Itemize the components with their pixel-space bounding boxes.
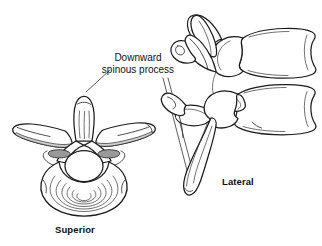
caption-superior-view: Superior [55,224,95,235]
left-superior-articular-facet [48,150,70,158]
superior-view-vertebra [13,96,156,216]
leader-line-to-lateral-view-secondary [168,78,194,176]
right-superior-articular-facet [98,150,120,158]
callout-downward-spinous-process: Downward spinous process [96,52,180,75]
caption-lateral-view: Lateral [222,176,254,187]
vertebra-illustration [0,0,322,246]
callout-line-2: spinous process [96,64,180,76]
vertebral-foramen [65,151,103,182]
lower-inferior-articular-process [161,93,186,115]
lateral-view-vertebrae [161,15,315,195]
callout-line-1: Downward [96,52,180,64]
anatomy-figure: Downward spinous process Superior Latera… [0,0,322,246]
